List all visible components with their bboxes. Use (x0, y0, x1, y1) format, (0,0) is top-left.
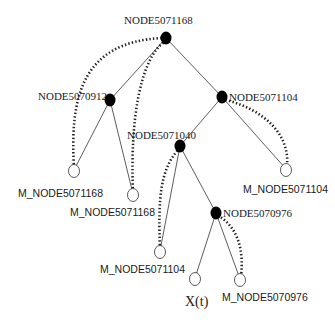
leaf-node-5[interactable] (190, 273, 201, 286)
backref-leaf2-root (132, 42, 164, 192)
label-leaf1: M_NODE5071168 (18, 187, 103, 199)
backref-leaf6-n976 (219, 216, 242, 277)
edge-root-n1104 (166, 38, 222, 97)
backref-leaf3-n1104 (226, 100, 287, 166)
leaf-node-1[interactable] (69, 165, 80, 178)
tree-edges (74, 38, 286, 279)
edge-n912-leaf2 (110, 100, 133, 194)
internal-nodes (105, 32, 228, 220)
label-n1104: NODE5071104 (229, 91, 298, 103)
edge-n1040-n976 (180, 146, 216, 213)
edge-n1040-leaf4 (160, 146, 180, 251)
edge-n976-leaf5 (195, 213, 216, 278)
edge-n912-leaf1 (74, 100, 110, 170)
label-leaf5: X(t) (185, 294, 209, 310)
node-labels: NODE5071168 NODE5070912 NODE5071104 NODE… (18, 14, 328, 310)
leaf-node-6[interactable] (235, 274, 246, 287)
edge-n976-leaf6 (216, 213, 240, 279)
node-root[interactable] (161, 32, 172, 45)
label-n1040: NODE5071040 (127, 129, 197, 141)
node-n1040[interactable] (175, 140, 186, 153)
back-reference-arcs (73, 38, 287, 277)
label-leaf3: M_NODE5071104 (243, 183, 328, 195)
label-leaf6: M_NODE5070976 (222, 291, 308, 303)
node-n1104[interactable] (217, 91, 228, 104)
label-n976: NODE5070976 (223, 207, 293, 219)
tree-diagram: NODE5071168 NODE5070912 NODE5071104 NODE… (0, 0, 335, 326)
label-n912: NODE5070912 (38, 90, 107, 102)
label-leaf2: M_NODE5071168 (70, 206, 155, 218)
leaf-node-3[interactable] (281, 164, 292, 177)
edge-n1104-leaf3 (222, 97, 286, 169)
label-leaf4: M_NODE5071104 (100, 263, 185, 275)
leaf-node-4[interactable] (155, 246, 166, 259)
backref-leaf4-n1040 (159, 150, 178, 249)
leaf-node-2[interactable] (128, 189, 139, 202)
label-root: NODE5071168 (124, 14, 193, 26)
node-n976[interactable] (211, 207, 222, 220)
